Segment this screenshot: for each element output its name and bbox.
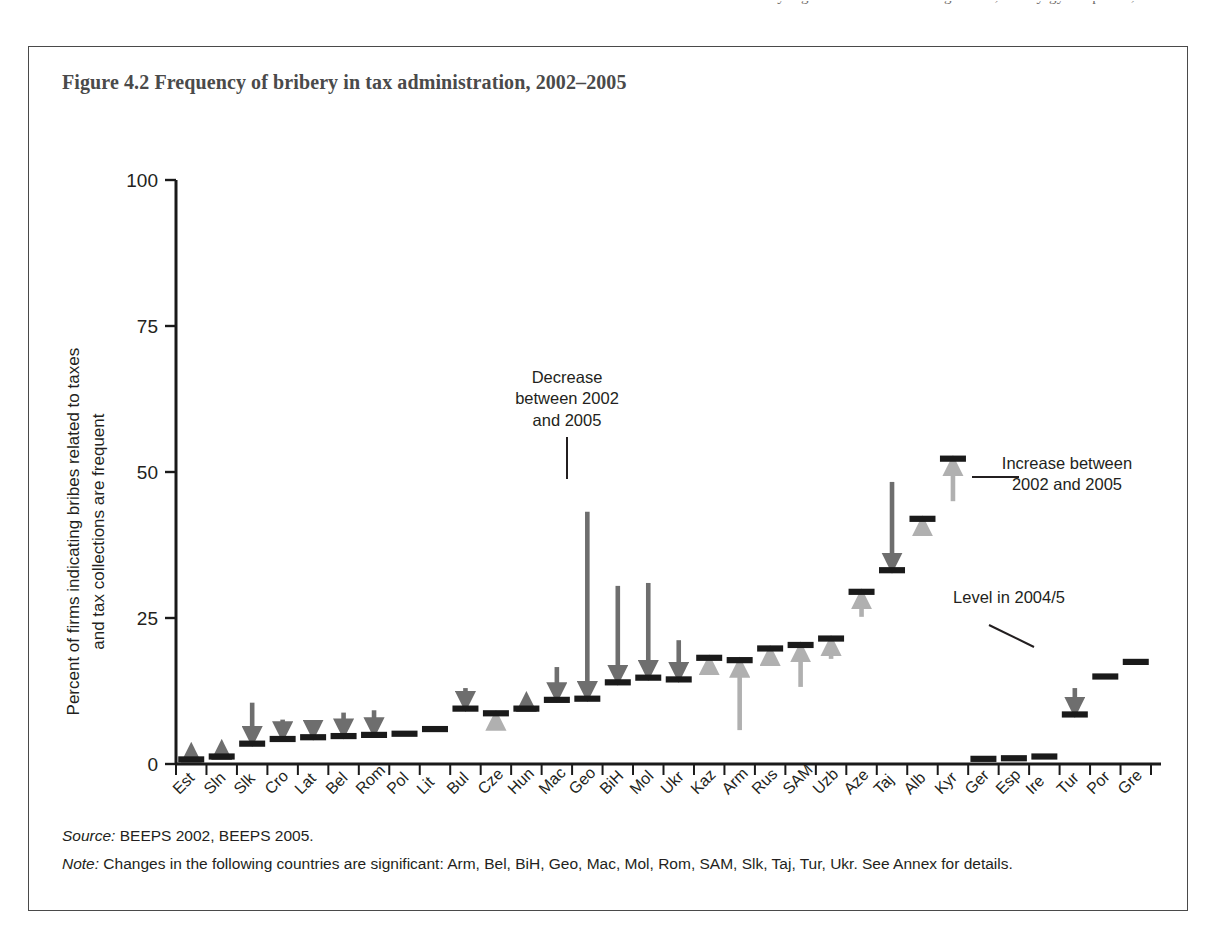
source-label: Source: (62, 827, 115, 844)
level-bar-ire (1031, 753, 1057, 759)
level-bar-taj (879, 567, 905, 573)
level-bar-pol (392, 731, 418, 737)
level-annotation-text: Level in 2004/5 (909, 587, 1109, 608)
chart-plot-area: 0255075100 EstSlnSlkCroLatBelRomPolLitBu… (29, 47, 1189, 912)
level-bar-mol (635, 675, 661, 681)
y-axis-tick-label: 50 (137, 462, 158, 483)
page-top-text-strip: by region. As is shown in Figure 4.2, th… (0, 0, 1221, 22)
increase-annotation-line-1: Increase between (957, 453, 1177, 474)
figure-frame: Figure 4.2 Frequency of bribery in tax a… (28, 46, 1188, 911)
level-bar-arm (727, 657, 753, 663)
increase-annotation-line-2: 2002 and 2005 (957, 474, 1177, 495)
level-bar-est (178, 756, 204, 762)
bribery-chart-svg: 0255075100 (29, 47, 1189, 847)
level-bar-uzb (818, 635, 844, 641)
level-bar-lat (300, 734, 326, 740)
decrease-annotation-line-3: and 2005 (477, 410, 657, 431)
level-bar-aze (849, 589, 875, 595)
source-line: Source: BEEPS 2002, BEEPS 2005. (62, 827, 314, 845)
level-bar-cro (270, 736, 296, 742)
level-bar-gre (1123, 659, 1149, 665)
level-bar-sam (788, 642, 814, 648)
figure-page: by region. As is shown in Figure 4.2, th… (0, 0, 1221, 948)
level-bar-tur (1062, 711, 1088, 717)
level-bar-ger (970, 756, 996, 762)
level-bar-por (1092, 673, 1118, 679)
decrease-annotation: Decreasebetween 2002and 2005 (477, 367, 657, 431)
note-line: Note: Changes in the following countries… (62, 855, 1013, 873)
y-axis-tick-label: 0 (147, 754, 158, 775)
level-bar-hun (513, 706, 539, 712)
page-running-text: by region. As is shown in Figure 4.2, th… (770, 0, 1135, 5)
level-bar-rom (361, 732, 387, 738)
level-bar-kaz (696, 655, 722, 661)
level-bar-mac (544, 697, 570, 703)
y-axis-tick-label: 100 (126, 170, 158, 191)
level-bar-lit (422, 726, 448, 732)
decrease-annotation-line-1: Decrease (477, 367, 657, 388)
note-text: Changes in the following countries are s… (99, 855, 1013, 872)
level-bar-esp (1001, 755, 1027, 761)
decrease-annotation-line-2: between 2002 (477, 388, 657, 409)
level-bar-sln (209, 753, 235, 759)
level-bar-slk (239, 741, 265, 747)
source-text: BEEPS 2002, BEEPS 2005. (115, 827, 313, 844)
level-annotation: Level in 2004/5 (909, 587, 1109, 608)
level-bar-cze (483, 710, 509, 716)
y-axis-tick-label: 25 (137, 608, 158, 629)
level-bar-alb (909, 516, 935, 522)
level-bar-bel (331, 733, 357, 739)
increase-annotation: Increase between2002 and 2005 (957, 453, 1177, 496)
level-bar-rus (757, 645, 783, 651)
level-bar-bih (605, 679, 631, 685)
y-axis-tick-label: 75 (137, 316, 158, 337)
level-bar-bul (452, 706, 478, 712)
level-leader-line (989, 625, 1034, 647)
note-label: Note: (62, 855, 99, 872)
level-bar-geo (574, 696, 600, 702)
level-bar-ukr (666, 676, 692, 682)
